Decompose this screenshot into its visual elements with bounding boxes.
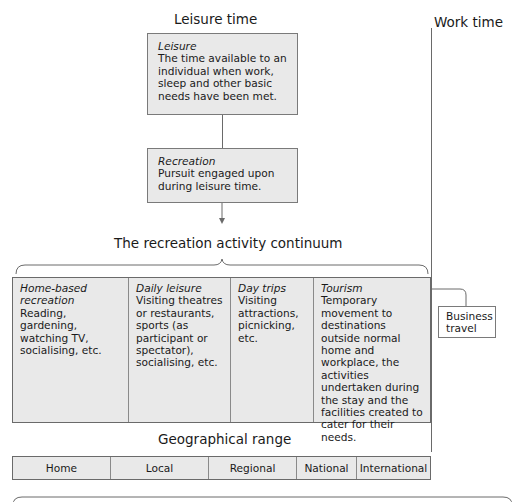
geo-range-regional: Regional: [209, 457, 297, 479]
business-travel-label: Business travel: [446, 310, 493, 334]
geo-range-home: Home: [13, 457, 111, 479]
geo-range-international: International: [357, 457, 430, 479]
continuum-brace-icon: [16, 259, 428, 274]
continuum-description: Visiting attractions, picnicking, etc.: [238, 294, 299, 343]
continuum-description: Visiting theatres or restaurants, sports…: [136, 294, 223, 368]
diagram-connectors: [0, 0, 516, 502]
bottom-brace-icon: [13, 497, 512, 502]
geographical-range-title: Geographical range: [158, 431, 291, 447]
continuum-cell-daily-leisure: Daily leisure Visiting theatres or resta…: [129, 278, 231, 422]
continuum-term: Daily leisure: [136, 282, 224, 294]
business-travel-box: Business travel: [438, 306, 496, 338]
continuum-description: Reading, gardening, watching TV, sociali…: [20, 307, 102, 356]
geo-range-national: National: [297, 457, 357, 479]
continuum-cell-tourism: Tourism Temporary movement to destinatio…: [314, 278, 430, 422]
continuum-term: Tourism: [321, 282, 424, 294]
continuum-term: Day trips: [238, 282, 307, 294]
geo-range-local: Local: [111, 457, 209, 479]
continuum-cell-day-trips: Day trips Visiting attractions, picnicki…: [231, 278, 314, 422]
geographical-range-scale: Home Local Regional National Internation…: [12, 456, 431, 480]
continuum-term: Home-based recreation: [20, 282, 122, 307]
continuum-description: Temporary movement to destinations outsi…: [321, 294, 423, 442]
arrow-head-icon: [219, 218, 225, 224]
recreation-continuum-table: Home-based recreation Reading, gardening…: [12, 277, 431, 423]
continuum-cell-home-based: Home-based recreation Reading, gardening…: [13, 278, 129, 422]
continuum-title: The recreation activity continuum: [114, 235, 343, 251]
